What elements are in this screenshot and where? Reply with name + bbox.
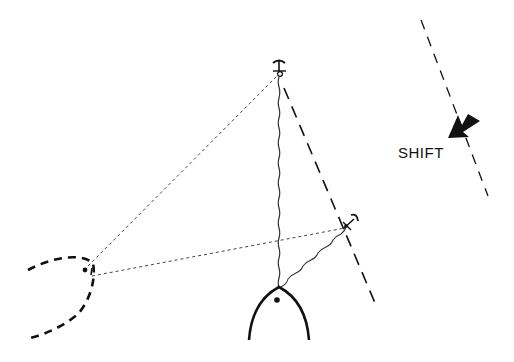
shifted-direction-line — [421, 20, 488, 196]
secondary-anchor-rode — [281, 227, 346, 287]
anchoring-diagram — [0, 0, 514, 362]
shift-arrow-icon — [448, 114, 480, 138]
shore-point-icon — [83, 268, 92, 275]
shore-to-secondary-anchor-line — [92, 228, 345, 276]
shore-to-primary-anchor-line — [88, 76, 277, 266]
shift-label: SHIFT — [398, 144, 444, 161]
primary-anchor-rode — [278, 77, 280, 288]
boat-bow-icon — [249, 287, 309, 340]
primary-anchor-icon — [273, 60, 286, 76]
secondary-anchor-icon — [343, 215, 358, 230]
original-direction-line — [284, 88, 375, 303]
